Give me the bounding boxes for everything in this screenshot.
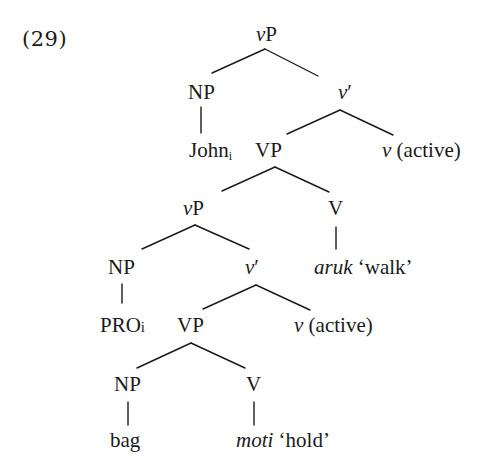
leaf-bag: bag [110,430,140,451]
leaf-aruk-walk: aruk ‘walk’ [314,257,413,278]
node-np-subject: NP [188,82,215,103]
tree-edge [340,110,393,135]
leaf-moti-hold: moti ‘hold’ [236,430,330,451]
tree-edge [203,285,256,309]
node-root-vp: vP [256,24,277,45]
leaf-john: Johni [189,140,232,161]
tree-edge [256,285,310,310]
tree-edge [265,49,318,76]
tree-edge [195,225,249,249]
tree-edge [287,110,340,134]
tree-edge [222,167,275,191]
leaf-pro: PROi [100,315,145,336]
tree-edge [191,343,245,368]
node-vp-upper: VP [255,140,282,161]
node-v-bar-upper: v′ [338,82,352,103]
node-v-bar-lower: v′ [245,257,259,278]
node-v-head-lower: v (active) [294,315,373,336]
node-v-head-upper: v (active) [382,140,461,161]
node-np-pro: NP [108,257,135,278]
node-v-walk: V [328,198,343,219]
node-v-hold: V [246,374,261,395]
tree-edge [275,167,329,192]
tree-edges [0,0,496,476]
tree-edge [142,225,195,249]
node-vp-lower: VP [177,315,204,336]
node-np-object: NP [114,374,141,395]
tree-edge [137,343,191,368]
tree-edge [212,49,265,73]
node-vp-embedded: vP [183,198,204,219]
